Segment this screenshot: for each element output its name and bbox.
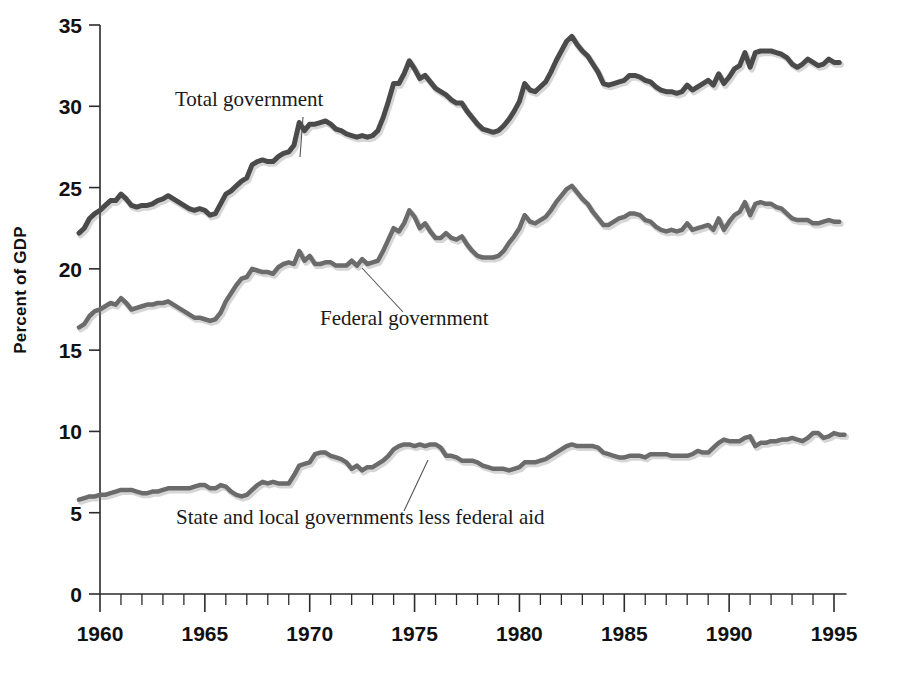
x-axis-tick-label: 1965 (181, 622, 228, 645)
y-axis-title-group: Percent of GDP (11, 226, 30, 354)
y-axis-title: Percent of GDP (11, 226, 30, 354)
x-axis-tick-label: 1975 (391, 622, 438, 645)
x-axis-tick-label: 1985 (601, 622, 648, 645)
y-axis-tick-label: 10 (59, 420, 82, 443)
x-axis-tick-label: 1990 (706, 622, 753, 645)
y-axis-tick-label: 20 (59, 258, 82, 281)
series-line-1 (79, 36, 839, 233)
chart-canvas: 0510152025303519601965197019751980198519… (0, 0, 898, 674)
x-axis-tick-label: 1970 (286, 622, 333, 645)
figure-caption (300, 663, 860, 674)
x-axis-tick-label: 1960 (77, 622, 124, 645)
federal-government-label: Federal government (320, 306, 489, 330)
annotation-layer: Total governmentFederal governmentState … (175, 87, 545, 529)
chart-figure: 0510152025303519601965197019751980198519… (0, 0, 898, 674)
annotation-leader-line (404, 460, 428, 511)
series-shadow (81, 39, 841, 236)
state-local-label: State and local governments less federal… (176, 505, 545, 529)
x-axis-tick-label: 1980 (496, 622, 543, 645)
y-axis-tick-label: 5 (70, 502, 82, 525)
y-axis-tick-label: 35 (59, 14, 83, 37)
total-government-label: Total government (175, 87, 324, 111)
y-axis-tick-label: 25 (59, 177, 83, 200)
y-axis-tick-label: 15 (59, 339, 83, 362)
y-axis-tick-label: 0 (70, 583, 82, 606)
series-shadow (81, 435, 846, 502)
y-axis-tick-label: 30 (59, 95, 82, 118)
x-axis-tick-label: 1995 (811, 622, 858, 645)
